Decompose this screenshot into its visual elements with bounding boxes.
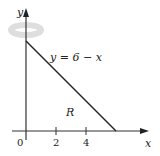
x-tick-label-2: 2 <box>53 137 59 148</box>
x-tick-label-4: 4 <box>83 137 89 148</box>
x-axis-label: x <box>145 137 152 150</box>
y-axis-label: y <box>16 6 24 19</box>
equation-label: y = 6 − x <box>49 51 103 64</box>
y-axis-arrowhead-icon <box>23 8 29 17</box>
origin-label: 0 <box>17 137 23 148</box>
x-axis <box>12 127 149 135</box>
x-axis-arrowhead-icon <box>140 128 149 134</box>
region-label: R <box>65 106 74 119</box>
rotation-arrow-icon <box>11 25 44 35</box>
region-diagram: y x 0 2 4 y = 6 − x R <box>0 0 160 156</box>
